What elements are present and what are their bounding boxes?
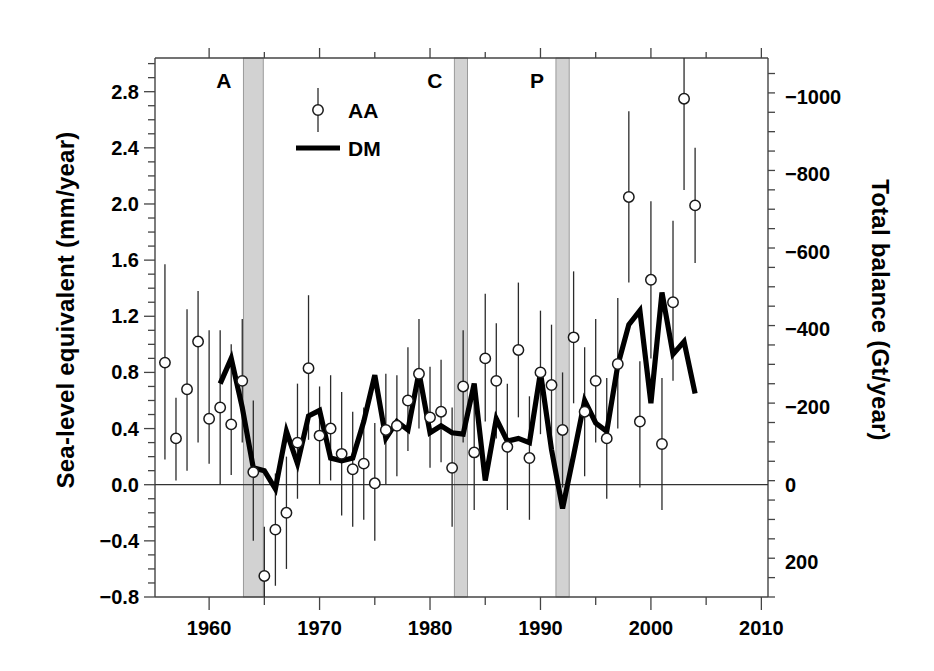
aa-data-point: [557, 425, 567, 435]
aa-data-point: [690, 200, 700, 210]
aa-data-point: [447, 463, 457, 473]
aa-data-point: [414, 369, 424, 379]
x-axis-tick-label: 1990: [518, 617, 563, 639]
x-axis-tick-label: 1960: [187, 617, 232, 639]
aa-data-point: [568, 332, 578, 342]
y-axis-right-tick-label: −600: [785, 241, 830, 263]
aa-data-point: [226, 419, 236, 429]
y-axis-right-tick-label: −200: [785, 396, 830, 418]
aa-data-point: [359, 458, 369, 468]
aa-data-point: [392, 421, 402, 431]
y-axis-left-title: Sea-level equivalent (mm/year): [52, 30, 80, 590]
x-axis-tick-label: 1970: [297, 617, 342, 639]
x-axis-tick-label: 1980: [408, 617, 453, 639]
y-axis-left-tick-label: 1.2: [111, 305, 139, 327]
aa-data-point: [425, 412, 435, 422]
aa-data-point: [303, 363, 313, 373]
aa-data-point: [281, 508, 291, 518]
x-axis-tick-label: 2000: [629, 617, 674, 639]
y-axis-left-tick-label: 0.8: [111, 361, 139, 383]
y-axis-right-tick-label: 200: [785, 551, 818, 573]
aa-data-point: [248, 467, 258, 477]
aa-data-point: [480, 353, 490, 363]
aa-data-point: [171, 433, 181, 443]
eruption-band-label-P: P: [530, 69, 544, 92]
aa-data-point: [679, 94, 689, 104]
aa-data-point: [546, 380, 556, 390]
aa-data-point: [602, 433, 612, 443]
figure-container: −0.8−0.40.00.40.81.21.62.02.42.82000−200…: [0, 0, 934, 671]
aa-data-point: [314, 430, 324, 440]
chart-svg: −0.8−0.40.00.40.81.21.62.02.42.82000−200…: [0, 0, 934, 671]
y-axis-right-tick-label: −800: [785, 163, 830, 185]
aa-data-point: [160, 357, 170, 367]
aa-data-point: [204, 414, 214, 424]
y-axis-left-tick-label: 0.4: [111, 418, 140, 440]
aa-data-point: [513, 345, 523, 355]
tick-labels-layer: −0.8−0.40.00.40.81.21.62.02.42.82000−200…: [100, 81, 842, 639]
eruption-band-label-A: A: [216, 69, 231, 92]
aa-data-point: [348, 464, 358, 474]
aa-data-point: [325, 423, 335, 433]
aa-data-point: [381, 425, 391, 435]
y-axis-right-title: Total balance (Gt/year): [866, 30, 894, 590]
aa-data-point: [624, 192, 634, 202]
eruption-band-P: [556, 58, 569, 597]
legend-label-aa: AA: [348, 99, 378, 122]
aa-data-point: [370, 478, 380, 488]
legend-label-dm: DM: [348, 137, 381, 160]
y-axis-left-tick-label: 2.0: [111, 193, 139, 215]
eruption-band-label-C: C: [427, 69, 442, 92]
aa-data-point: [237, 376, 247, 386]
x-axis-tick-label: 2010: [739, 617, 784, 639]
y-axis-left-tick-label: 1.6: [111, 249, 139, 271]
aa-data-point: [502, 442, 512, 452]
aa-data-point: [657, 439, 667, 449]
aa-data-point: [668, 297, 678, 307]
aa-data-point: [613, 359, 623, 369]
aa-series-markers: [160, 94, 701, 582]
eruption-band-labels: ACP: [216, 69, 544, 92]
legend: AADM: [296, 88, 381, 160]
aa-data-point: [270, 524, 280, 534]
aa-data-point: [646, 275, 656, 285]
aa-data-point: [215, 402, 225, 412]
aa-data-point: [336, 449, 346, 459]
y-axis-left-tick-label: −0.4: [100, 530, 140, 552]
aa-data-point: [436, 407, 446, 417]
aa-data-point: [635, 416, 645, 426]
y-axis-right-tick-label: 0: [785, 474, 796, 496]
aa-data-point: [403, 395, 413, 405]
eruption-bands-layer: [243, 58, 569, 597]
aa-data-point: [469, 447, 479, 457]
aa-data-point: [491, 376, 501, 386]
eruption-band-C: [454, 58, 467, 597]
aa-data-point: [535, 367, 545, 377]
aa-data-point: [259, 571, 269, 581]
aa-data-point: [524, 453, 534, 463]
aa-data-point: [590, 376, 600, 386]
aa-data-point: [292, 437, 302, 447]
legend-aa-marker: [313, 105, 323, 115]
y-axis-left-tick-label: 0.0: [111, 474, 139, 496]
y-axis-left-tick-label: 2.4: [111, 137, 140, 159]
aa-data-point: [182, 384, 192, 394]
y-axis-right-tick-label: −400: [785, 318, 830, 340]
aa-data-point: [193, 336, 203, 346]
y-axis-left-tick-label: 2.8: [111, 81, 139, 103]
aa-data-point: [579, 407, 589, 417]
aa-data-point: [458, 381, 468, 391]
y-axis-left-tick-label: −0.8: [100, 586, 139, 608]
y-axis-right-tick-label: −1000: [785, 86, 841, 108]
